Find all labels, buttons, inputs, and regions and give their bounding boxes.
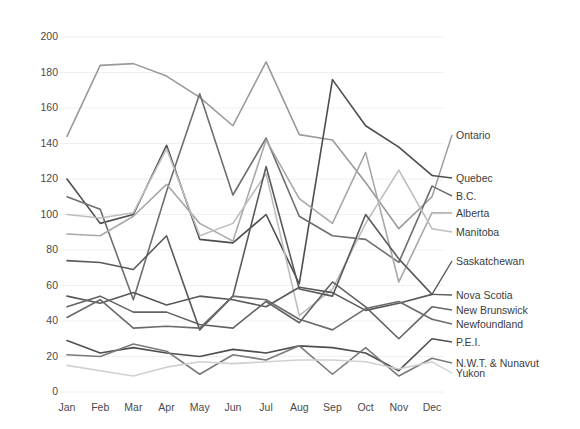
x-axis-tick-label: Aug	[282, 402, 316, 413]
y-axis-tick-label: 100	[22, 209, 58, 220]
legend-label-quebec[interactable]: Quebec	[456, 173, 493, 184]
legend-label-yukon[interactable]: Yukon	[456, 368, 485, 379]
y-axis-tick-label: 20	[22, 351, 58, 362]
series-line-alberta	[67, 140, 432, 282]
x-axis-tick-label: Jun	[216, 402, 250, 413]
series-line-yukon	[67, 360, 432, 376]
series-line-p-e-i	[67, 339, 432, 371]
y-axis-tick-label: 200	[22, 31, 58, 42]
legend-connector	[432, 261, 452, 294]
legend-label-alberta[interactable]: Alberta	[456, 208, 489, 219]
x-axis-tick-label: May	[183, 402, 217, 413]
legend-connector	[432, 339, 452, 342]
legend-label-b-c[interactable]: B.C.	[456, 191, 476, 202]
x-axis-tick-label: Apr	[150, 402, 184, 413]
legend-label-ontario[interactable]: Ontario	[456, 130, 490, 141]
legend-connector	[432, 307, 452, 310]
series-line-quebec	[67, 80, 432, 284]
chart-container: 020406080100120140160180200JanFebMarAprM…	[0, 0, 580, 429]
x-axis-tick-label: Jul	[249, 402, 283, 413]
x-axis-tick-label: Dec	[415, 402, 449, 413]
series-line-new-brunswick	[67, 282, 432, 339]
legend-label-saskatchewan[interactable]: Saskatchewan	[456, 256, 524, 267]
y-axis-tick-label: 180	[22, 67, 58, 78]
legend-connector	[432, 229, 452, 232]
legend-connector	[432, 175, 452, 178]
legend-label-nova-scotia[interactable]: Nova Scotia	[456, 290, 513, 301]
y-axis-tick-label: 60	[22, 280, 58, 291]
legend-connector	[432, 319, 452, 324]
legend-label-newfoundland[interactable]: Newfoundland	[456, 319, 523, 330]
legend-label-p-e-i[interactable]: P.E.I.	[456, 337, 480, 348]
series-line-newfoundland	[67, 296, 432, 330]
x-axis-tick-label: Oct	[349, 402, 383, 413]
legend-connector	[432, 294, 452, 295]
legend-connector	[432, 186, 452, 196]
y-axis-tick-label: 80	[22, 244, 58, 255]
y-axis-tick-label: 40	[22, 315, 58, 326]
legend-label-manitoba[interactable]: Manitoba	[456, 227, 499, 238]
x-axis-tick-label: Mar	[116, 402, 150, 413]
x-axis-tick-label: Jan	[50, 402, 84, 413]
x-axis-tick-label: Nov	[382, 402, 416, 413]
x-axis-tick-label: Feb	[83, 402, 117, 413]
legend-connector	[432, 358, 452, 363]
y-axis-tick-label: 120	[22, 173, 58, 184]
x-axis-tick-label: Sep	[315, 402, 349, 413]
y-axis-tick-label: 0	[22, 386, 58, 397]
legend-label-new-brunswick[interactable]: New Brunswick	[456, 305, 528, 316]
y-axis-tick-label: 160	[22, 102, 58, 113]
y-axis-tick-label: 140	[22, 138, 58, 149]
legend-connector	[432, 362, 452, 373]
